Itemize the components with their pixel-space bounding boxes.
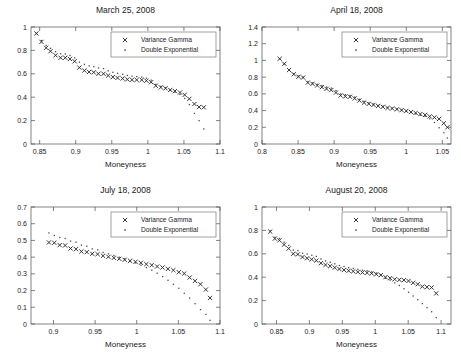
data-point-de	[394, 282, 395, 283]
data-point-de	[334, 263, 335, 264]
x-tick-label: 0.9	[329, 148, 339, 155]
data-point-vg	[286, 246, 290, 250]
data-point-vg	[77, 65, 81, 69]
x-axis-label: Moneyness	[336, 340, 377, 349]
legend-label-double-exponential: Double Exponential	[141, 226, 199, 234]
data-point-vg	[198, 282, 202, 286]
data-point-vg	[168, 88, 172, 92]
data-point-de	[426, 307, 427, 308]
data-point-de	[412, 295, 413, 296]
data-point-vg	[328, 264, 332, 268]
data-point-vg	[295, 252, 299, 256]
data-point-vg	[378, 273, 382, 277]
data-point-vg	[360, 270, 364, 274]
x-tick-label: 0.9	[49, 328, 59, 335]
y-tick-label: 0	[254, 321, 258, 328]
data-point-vg	[140, 78, 144, 82]
y-tick-label: 1	[254, 204, 258, 211]
x-tick-label: 0.95	[335, 328, 349, 335]
y-tick-label: 0	[23, 321, 27, 328]
data-point-de	[131, 76, 132, 77]
data-point-de	[398, 285, 399, 286]
data-point-de	[108, 253, 109, 254]
data-point-vg	[202, 105, 206, 109]
data-point-de	[93, 66, 94, 67]
data-point-de	[167, 280, 168, 281]
panel-title: April 18, 2008	[330, 5, 383, 15]
data-point-vg	[68, 246, 72, 250]
plot-area: August 20, 200800.20.40.60.810.850.90.95…	[231, 180, 461, 360]
data-point-vg	[171, 268, 175, 272]
data-point-vg	[58, 243, 62, 247]
y-tick-label: 0.8	[248, 227, 258, 234]
y-tick-label: 0.6	[17, 220, 27, 227]
legend[interactable]: Variance GammaDouble Exponential	[111, 32, 216, 57]
data-point-vg	[73, 59, 77, 63]
data-point-vg	[92, 70, 96, 74]
data-point-de	[330, 87, 331, 88]
data-point-de	[108, 70, 109, 71]
data-point-de	[403, 288, 404, 289]
data-point-vg	[125, 77, 129, 81]
legend[interactable]: Variance GammaDouble Exponential	[342, 32, 447, 57]
x-tick-label: 1	[135, 328, 139, 335]
data-point-de	[194, 303, 195, 304]
data-point-vg	[166, 267, 170, 271]
series-double-exponential	[279, 58, 448, 139]
data-point-vg	[441, 121, 445, 125]
data-point-vg	[429, 285, 433, 289]
data-point-de	[70, 240, 71, 241]
panel-march-25-2008: March 25, 200800.20.40.60.810.850.90.951…	[0, 0, 231, 180]
data-point-de	[97, 249, 98, 250]
data-point-vg	[385, 106, 389, 110]
legend[interactable]: Variance GammaDouble Exponential	[111, 212, 216, 237]
legend-label-variance-gamma: Variance Gamma	[141, 216, 192, 223]
x-tick-label: 1.1	[215, 148, 225, 155]
data-point-de	[435, 317, 436, 318]
y-tick-label: 1	[254, 57, 258, 64]
data-point-de	[55, 51, 56, 52]
x-tick-label: 1	[146, 148, 150, 155]
data-point-vg	[182, 271, 186, 275]
data-point-de	[81, 245, 82, 246]
legend-label-variance-gamma: Variance Gamma	[372, 36, 423, 43]
data-point-de	[417, 299, 418, 300]
data-point-vg	[96, 252, 100, 256]
data-point-vg	[341, 268, 345, 272]
dot-marker-icon	[355, 49, 357, 51]
data-point-de	[315, 256, 316, 257]
data-point-de	[446, 137, 447, 138]
data-point-vg	[390, 106, 394, 110]
data-point-vg	[106, 255, 110, 259]
data-point-de	[443, 132, 444, 133]
data-point-de	[335, 90, 336, 91]
data-point-de	[198, 120, 199, 121]
data-point-vg	[371, 103, 375, 107]
data-point-de	[407, 292, 408, 293]
data-point-de	[338, 265, 339, 266]
data-point-vg	[52, 241, 56, 245]
data-point-vg	[197, 105, 201, 109]
dot-marker-icon	[355, 229, 357, 231]
data-point-de	[141, 76, 142, 77]
plot-area: July 18, 200800.10.20.30.40.50.60.70.90.…	[0, 180, 230, 360]
data-point-de	[292, 249, 293, 250]
data-point-vg	[268, 229, 272, 233]
data-point-de	[421, 303, 422, 304]
data-point-vg	[160, 265, 164, 269]
data-point-vg	[53, 53, 57, 57]
data-point-vg	[96, 72, 100, 76]
x-tick-label: 0.95	[363, 148, 377, 155]
y-tick-label: 0.4	[248, 107, 258, 114]
y-tick-label: 0.4	[17, 254, 27, 261]
data-point-de	[140, 265, 141, 266]
data-point-de	[162, 276, 163, 277]
data-point-de	[102, 252, 103, 253]
data-point-vg	[301, 75, 305, 79]
data-point-vg	[90, 252, 94, 256]
data-point-de	[46, 45, 47, 46]
data-point-de	[189, 104, 190, 105]
data-point-de	[179, 94, 180, 95]
data-point-vg	[208, 296, 212, 300]
legend[interactable]: Variance GammaDouble Exponential	[342, 212, 447, 237]
